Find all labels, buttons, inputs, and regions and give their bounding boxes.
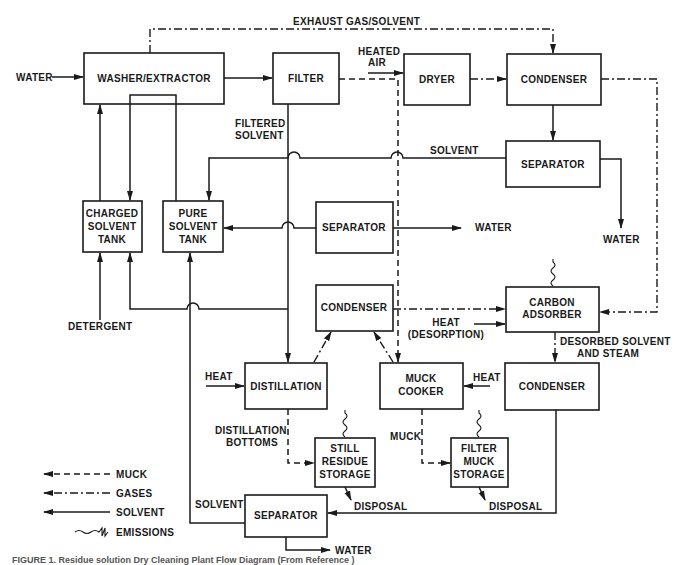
svg-text:FILTER: FILTER	[288, 73, 325, 84]
svg-text:HEATED: HEATED	[358, 46, 400, 57]
svg-text:TANK: TANK	[98, 234, 127, 245]
svg-text:SOLVENT: SOLVENT	[195, 499, 244, 510]
box-separator-mid: SEPARATOR	[316, 202, 393, 253]
legend: MUCK GASES SOLVENT EMISSIONS	[44, 469, 174, 538]
svg-text:EXHAUST GAS/SOLVENT: EXHAUST GAS/SOLVENT	[293, 16, 420, 27]
svg-text:MUCK: MUCK	[463, 456, 495, 467]
svg-text:SOLVENT: SOLVENT	[88, 221, 137, 232]
box-filter: FILTER	[273, 53, 339, 104]
svg-text:FILTER: FILTER	[461, 443, 498, 454]
svg-text:EMISSIONS: EMISSIONS	[116, 527, 174, 538]
svg-text:DETERGENT: DETERGENT	[68, 321, 132, 332]
svg-text:STORAGE: STORAGE	[453, 469, 504, 480]
svg-text:PURE: PURE	[179, 208, 208, 219]
svg-text:CONDENSER: CONDENSER	[519, 381, 586, 392]
svg-text:FILTERED: FILTERED	[235, 118, 286, 129]
box-distillation: DISTILLATION	[245, 363, 327, 409]
svg-text:WATER: WATER	[475, 222, 512, 233]
svg-text:CONDENSER: CONDENSER	[321, 302, 388, 313]
svg-text:MUCK: MUCK	[405, 373, 437, 384]
svg-text:MUCK: MUCK	[116, 469, 148, 480]
svg-text:BOTTOMS: BOTTOMS	[226, 437, 278, 448]
svg-text:DISPOSAL: DISPOSAL	[354, 501, 408, 512]
svg-text:COOKER: COOKER	[398, 386, 444, 397]
flow-diagram: WASHER/EXTRACTOR FILTER DRYER CONDENSER …	[0, 0, 680, 565]
svg-text:CARBON: CARBON	[529, 297, 575, 308]
svg-text:SOLVENT: SOLVENT	[116, 507, 165, 518]
svg-text:DISTILLATION: DISTILLATION	[215, 425, 287, 436]
svg-text:SOLVENT: SOLVENT	[169, 221, 218, 232]
svg-text:STILL: STILL	[330, 443, 359, 454]
svg-text:HEAT: HEAT	[205, 371, 233, 382]
svg-text:SOLVENT: SOLVENT	[235, 130, 284, 141]
box-dryer: DRYER	[404, 54, 470, 105]
svg-text:DESORBED SOLVENT: DESORBED SOLVENT	[560, 336, 671, 347]
svg-text:CHARGED: CHARGED	[86, 208, 139, 219]
box-condenser-mid: CONDENSER	[316, 285, 393, 331]
box-pure-solvent-tank: PURE SOLVENT TANK	[163, 201, 223, 252]
svg-text:RESIDUE: RESIDUE	[322, 456, 369, 467]
box-condenser-top: CONDENSER	[507, 54, 601, 105]
svg-text:GASES: GASES	[116, 488, 153, 499]
box-separator-bottom: SEPARATOR	[245, 495, 327, 537]
svg-text:AND STEAM: AND STEAM	[577, 348, 639, 359]
svg-text:SEPARATOR: SEPARATOR	[254, 510, 318, 521]
box-washer-extractor: WASHER/EXTRACTOR	[84, 53, 224, 104]
svg-text:WATER: WATER	[16, 72, 53, 83]
box-carbon-adsorber: CARBON ADSORBER	[506, 287, 599, 332]
svg-text:STORAGE: STORAGE	[319, 469, 370, 480]
svg-text:WATER: WATER	[603, 234, 640, 245]
svg-text:SEPARATOR: SEPARATOR	[521, 159, 585, 170]
box-separator-top: SEPARATOR	[506, 141, 600, 187]
svg-text:DISTILLATION: DISTILLATION	[250, 381, 322, 392]
svg-text:TANK: TANK	[179, 234, 208, 245]
svg-text:HEAT: HEAT	[473, 372, 501, 383]
box-still-residue-storage: STILL RESIDUE STORAGE	[315, 438, 375, 487]
box-filter-muck-storage: FILTER MUCK STORAGE	[451, 438, 508, 487]
svg-text:DRYER: DRYER	[419, 74, 456, 85]
svg-text:DISPOSAL: DISPOSAL	[489, 501, 543, 512]
box-condenser-low: CONDENSER	[505, 363, 599, 410]
svg-text:SOLVENT: SOLVENT	[430, 145, 479, 156]
figure-caption: FIGURE 1. Residue solution Dry Cleaning …	[12, 555, 355, 565]
svg-text:CONDENSER: CONDENSER	[521, 74, 588, 85]
svg-text:HEAT: HEAT	[432, 317, 460, 328]
svg-text:WASHER/EXTRACTOR: WASHER/EXTRACTOR	[97, 73, 211, 84]
svg-text:AIR: AIR	[368, 57, 387, 68]
box-charged-solvent-tank: CHARGED SOLVENT TANK	[83, 201, 142, 252]
svg-text:(DESORPTION): (DESORPTION)	[408, 329, 484, 340]
svg-text:SEPARATOR: SEPARATOR	[322, 222, 386, 233]
svg-text:MUCK: MUCK	[390, 431, 422, 442]
box-muck-cooker: MUCK COOKER	[380, 363, 463, 409]
svg-text:ADSORBER: ADSORBER	[522, 309, 582, 320]
